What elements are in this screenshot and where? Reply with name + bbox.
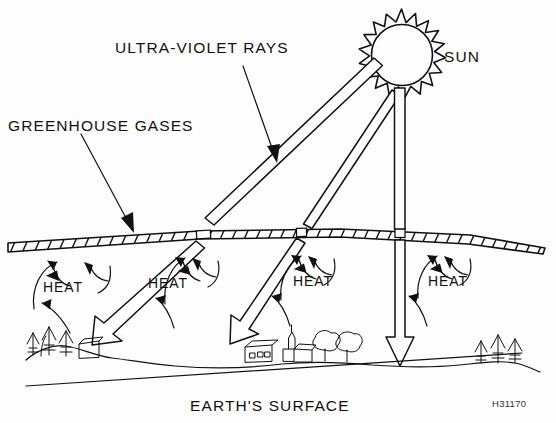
- sun-label: SUN: [444, 48, 480, 65]
- diagram-canvas: HEAT HEAT HEAT: [0, 0, 556, 423]
- heat-label-4: HEAT: [428, 273, 468, 289]
- band-gap-left: [196, 230, 210, 239]
- conifer-cluster-right: [475, 335, 522, 363]
- heat-label-2: HEAT: [148, 275, 188, 291]
- uv-ray-left-lower-arrow: [92, 241, 205, 345]
- band-gap-middle: [296, 228, 306, 237]
- heat-label-3: HEAT: [293, 273, 333, 289]
- greenhouse-gases-label: GREENHOUSE GASES: [8, 117, 194, 134]
- uv-ray-vertical-lower-arrow: [386, 240, 414, 366]
- heat-label-1: HEAT: [43, 279, 83, 295]
- uv-ray-vertical-upper: [395, 88, 406, 229]
- uv-rays-leader-line: [243, 66, 280, 163]
- band-gap-right: [395, 229, 405, 238]
- heat-group-4: HEAT: [409, 255, 471, 326]
- sun-icon: [359, 9, 445, 98]
- uv-ray-left-upper: [205, 58, 383, 225]
- ultraviolet-rays-label: ULTRA-VIOLET RAYS: [115, 39, 289, 56]
- greenhouse-effect-diagram: HEAT HEAT HEAT: [0, 0, 556, 423]
- village: [245, 325, 362, 362]
- earths-surface-label: EARTH'S SURFACE: [190, 397, 350, 414]
- band-hatching: [0, 220, 556, 265]
- greenhouse-gas-band: [0, 220, 556, 265]
- figure-code-label: H31170: [492, 398, 526, 409]
- greenhouse-gases-leader-line: [81, 134, 134, 233]
- uv-ray-middle-lower-arrow: [230, 238, 305, 344]
